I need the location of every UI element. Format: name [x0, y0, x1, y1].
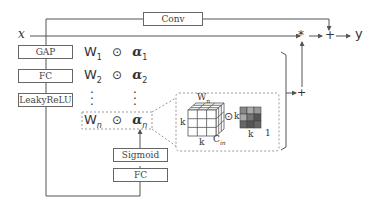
ellipsis-alpha: ··· — [133, 90, 137, 108]
weight-row-2: W2 ⊙ α2 — [84, 67, 147, 85]
output-y-label: y — [355, 26, 363, 41]
detail-odot: ⊙ — [224, 110, 233, 123]
kernel-cube-icon — [188, 103, 224, 136]
fc-block-left: FC — [18, 69, 73, 83]
detail-k-left: k — [180, 117, 185, 127]
weight-row-1: W1 ⊙ α1 — [84, 44, 147, 62]
weight-row-n: Wn ⊙ αn — [84, 112, 147, 130]
detail-one: 1 — [265, 128, 271, 138]
add-op-branch: + — [297, 86, 306, 99]
conv-block: Conv — [143, 12, 203, 26]
detail-k-bottom: k — [199, 137, 204, 147]
gap-block: GAP — [18, 45, 73, 59]
detail-cin: Cin — [213, 134, 226, 146]
input-x-label: x — [18, 27, 25, 41]
add-op-output: + — [325, 28, 335, 42]
leakyrelu-block: LeakyReLU — [18, 93, 73, 107]
sigmoid-block: Sigmoid — [113, 148, 168, 162]
attention-grid-icon — [240, 107, 261, 128]
fc-block-bottom: FC — [113, 168, 168, 182]
detail-k-right: k — [234, 111, 239, 121]
ellipsis-w: ··· — [90, 90, 94, 108]
multiply-op: * — [298, 28, 304, 42]
detail-w-label: Wn — [197, 92, 210, 104]
detail-k-bottom2: k — [248, 129, 253, 139]
